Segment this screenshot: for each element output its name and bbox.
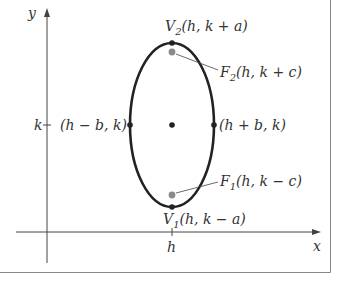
f2-leader-line	[176, 54, 218, 70]
focus-f1-point	[169, 192, 176, 199]
ellipse-diagram: y k x h V2(h, k + a) F2(h, k + c) (h − b…	[0, 0, 344, 283]
covertex-right-point	[211, 122, 217, 128]
v1-label: V1(h, k − a)	[163, 211, 246, 230]
covertex-left-label: (h − b, k)	[60, 117, 127, 133]
x-axis: x h	[16, 228, 321, 255]
y-axis: y k	[27, 5, 51, 263]
center-point	[169, 122, 175, 128]
y-axis-arrow-icon	[44, 8, 50, 17]
x-axis-arrow-icon	[312, 229, 321, 235]
y-tick-label: k	[34, 117, 42, 133]
v2-label: V2(h, k + a)	[165, 18, 248, 37]
f2-label: F2(h, k + c)	[219, 64, 302, 83]
focus-f2-point	[169, 49, 176, 56]
covertex-left-point	[127, 122, 133, 128]
vertex-v1-point	[169, 204, 175, 210]
x-axis-label: x	[313, 238, 321, 254]
covertex-right-label: (h + b, k)	[219, 117, 286, 133]
y-axis-label: y	[27, 5, 37, 21]
vertex-v2-point	[169, 40, 175, 46]
f1-label: F1(h, k − c)	[219, 173, 302, 192]
x-tick-label: h	[167, 239, 176, 255]
